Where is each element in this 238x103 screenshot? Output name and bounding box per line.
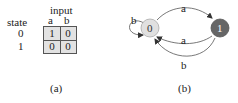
state-diagram [0, 0, 238, 103]
edge-label-1-0-a: a [181, 35, 186, 46]
node-label-1: 1 [217, 23, 223, 34]
edge-label-self-b: b [131, 15, 137, 26]
caption-b: (b) [178, 83, 191, 94]
edge-label-1-0-b: b [181, 60, 187, 71]
edge-label-0-1-a: a [181, 3, 186, 14]
node-label-0: 0 [147, 23, 153, 34]
